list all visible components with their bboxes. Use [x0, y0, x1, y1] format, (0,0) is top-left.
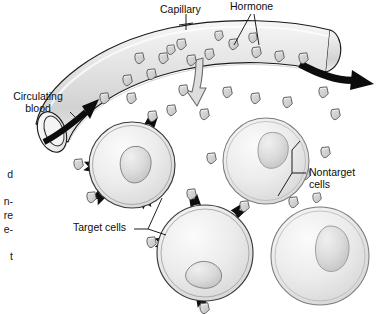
blood-outflow-arrow: [300, 64, 374, 90]
figure-canvas: Capillary Hormone Circulating blood Targ…: [0, 0, 380, 314]
margin-text-fragment: re: [0, 210, 13, 222]
label-nontarget-cells: Nontarget cells: [309, 167, 355, 190]
margin-text-fragment: e-: [0, 224, 13, 236]
label-capillary: Capillary: [160, 4, 201, 16]
label-target-cells: Target cells: [73, 222, 126, 234]
cell-nontarget-bottom-right: [271, 207, 369, 305]
cell-target-left: [74, 111, 175, 210]
cell-target-bottom-center: [147, 189, 253, 314]
margin-text-fragment: d: [0, 169, 13, 181]
diagram-artwork: [0, 0, 380, 314]
cell-nontarget-top-right: [223, 118, 309, 204]
margin-text-fragment: n-: [0, 196, 13, 208]
margin-text-fragment: t: [0, 251, 13, 263]
label-hormone: Hormone: [230, 1, 273, 13]
label-circulating-blood: Circulating blood: [2, 91, 74, 114]
